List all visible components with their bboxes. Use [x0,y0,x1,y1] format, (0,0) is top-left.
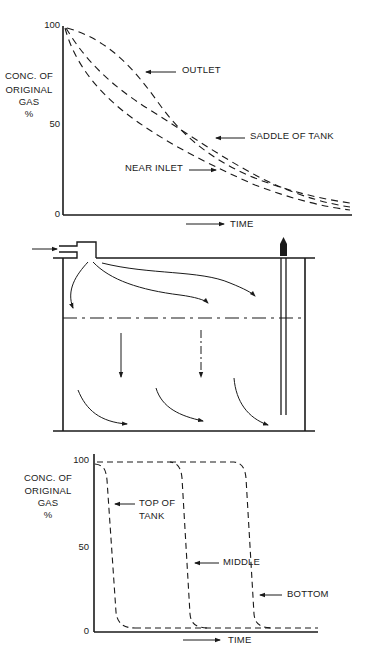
bottom-tick-50: 50 [65,541,89,552]
bottom-tick-100: 100 [65,454,89,465]
top-xlabel: TIME [230,218,254,230]
curve-saddle [66,28,350,207]
top-ylabel-line2: ORIGINAL [0,84,69,96]
top-tick-0: 0 [36,208,60,219]
bottom-ylabel-line4: % [8,509,88,521]
label-top-of-tank-line2: TANK [139,510,164,522]
label-outlet: OUTLET [182,64,221,76]
label-near-inlet: NEAR INLET [125,162,183,174]
top-ylabel-line3: GAS [0,96,69,108]
curl-arrow-1 [78,390,127,424]
curve-top-of-tank [95,464,135,628]
flow-arrow-1 [71,262,88,308]
top-ylabel-line1: CONC. OF [0,70,69,82]
bottom-ylabel-line2: ORIGINAL [8,485,88,497]
inlet-pipe [53,242,96,258]
tank-diagram [32,237,315,431]
top-ylabel-line4: % [0,108,69,120]
label-saddle-of-tank: SADDLE OF TANK [250,130,334,142]
label-bottom: BOTTOM [287,588,329,600]
vent-cap-icon [280,237,287,256]
label-top-of-tank-line1: TOP OF [139,497,175,509]
flow-arrow-3 [102,263,255,296]
flow-arrow-2 [93,262,208,303]
curl-arrow-3 [234,378,268,425]
label-middle: MIDDLE [223,556,260,568]
bottom-ylabel-line3: GAS [8,497,88,509]
curve-middle [97,462,210,628]
curl-arrow-2 [156,388,203,421]
top-chart [63,26,352,224]
bottom-ylabel-line1: CONC. OF [8,472,88,484]
top-tick-100: 100 [36,19,60,30]
curve-near-inlet [65,28,350,210]
bottom-chart [94,454,318,640]
bottom-xlabel: TIME [228,634,252,646]
bottom-tick-0: 0 [65,625,89,636]
curve-outlet [67,28,350,203]
